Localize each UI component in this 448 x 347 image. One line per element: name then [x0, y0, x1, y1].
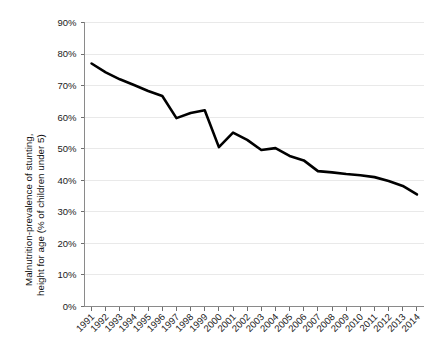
y-tick-label: 60% [57, 112, 77, 123]
y-tick-label: 0% [63, 301, 77, 312]
line-chart: 0%10%20%30%40%50%60%70%80%90% 1991199219… [0, 0, 448, 347]
y-axis-title-line1: Malnutrition-prevalence of stunting, [23, 134, 34, 286]
x-axis-ticks-group: 1991199219931994199519961997199819992000… [74, 307, 422, 334]
data-series-line [92, 64, 417, 195]
y-tick-label: 30% [57, 206, 77, 217]
y-axis-ticks-group: 0%10%20%30%40%50%60%70%80%90% [57, 17, 84, 312]
y-tick-label: 80% [57, 48, 77, 59]
y-tick-label: 40% [57, 175, 77, 186]
y-tick-label: 20% [57, 238, 77, 249]
y-tick-label: 90% [57, 17, 77, 28]
chart-container: 0%10%20%30%40%50%60%70%80%90% 1991199219… [0, 0, 448, 347]
y-tick-label: 50% [57, 143, 77, 154]
y-tick-label: 10% [57, 269, 77, 280]
gridlines-group [85, 23, 425, 275]
y-tick-label: 70% [57, 80, 77, 91]
y-axis-title-line2: height for age (% of children under 5) [35, 134, 46, 296]
